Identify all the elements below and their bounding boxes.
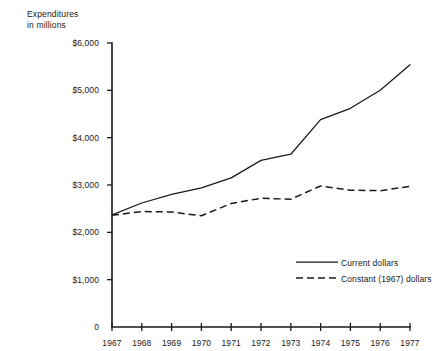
tick-marks (107, 43, 410, 331)
x-tick-label: 1968 (132, 338, 151, 348)
series-constant-dollars (112, 186, 410, 216)
y-tick-label: $6,000 (72, 38, 99, 48)
axis-lines (112, 43, 410, 327)
series-current-dollars (112, 65, 410, 215)
x-tick-label: 1975 (341, 338, 360, 348)
chart-legend: Current dollarsConstant (1967) dollars (296, 258, 432, 284)
y-tick-label: $3,000 (72, 180, 99, 190)
plot-area: $6,000$5,000$4,000$3,000$2,000$1,0000 19… (0, 0, 444, 351)
x-tick-label: 1971 (222, 338, 241, 348)
x-tick-label: 1977 (400, 338, 419, 348)
x-tick-label: 1970 (192, 338, 211, 348)
y-tick-label: $5,000 (72, 85, 99, 95)
y-axis-tick-labels: $6,000$5,000$4,000$3,000$2,000$1,0000 (72, 38, 99, 332)
y-tick-label: $2,000 (72, 227, 99, 237)
y-tick-label: $4,000 (72, 133, 99, 143)
y-tick-label: 0 (94, 322, 99, 332)
expenditures-line-chart: Expenditures in millions $6,000$5,000$4,… (0, 0, 444, 351)
x-axis-tick-labels: 1967196819691970197119721973197419751976… (102, 338, 419, 348)
x-tick-label: 1974 (311, 338, 330, 348)
legend-label: Constant (1967) dollars (341, 274, 432, 284)
legend-label: Current dollars (341, 258, 398, 268)
x-tick-label: 1967 (102, 338, 121, 348)
x-tick-label: 1976 (371, 338, 390, 348)
x-tick-label: 1973 (281, 338, 300, 348)
x-tick-label: 1972 (251, 338, 270, 348)
y-tick-label: $1,000 (72, 275, 99, 285)
x-tick-label: 1969 (162, 338, 181, 348)
